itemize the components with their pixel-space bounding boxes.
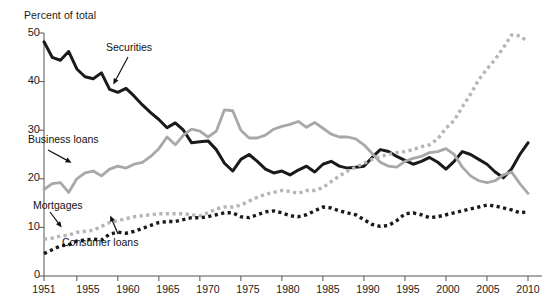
annotation-arrow-3 — [110, 215, 118, 234]
series-label-business-loans: Business loans — [28, 133, 99, 145]
series-group — [44, 35, 528, 254]
series-label-securities: Securities — [106, 41, 152, 53]
annotation-arrow-1 — [48, 150, 72, 163]
series-label-consumer-loans: Consumer loans — [62, 236, 138, 248]
series-label-mortgages: Mortgages — [33, 199, 83, 211]
plot-area — [0, 0, 546, 307]
annotation-arrow-0 — [113, 57, 128, 85]
chart-container: Percent of total 50 40 30 20 10 0 1951 1… — [0, 0, 546, 307]
annotation-arrow-2 — [50, 212, 62, 228]
series-line-mortgages — [44, 35, 528, 239]
series-line-business-loans — [44, 110, 528, 194]
